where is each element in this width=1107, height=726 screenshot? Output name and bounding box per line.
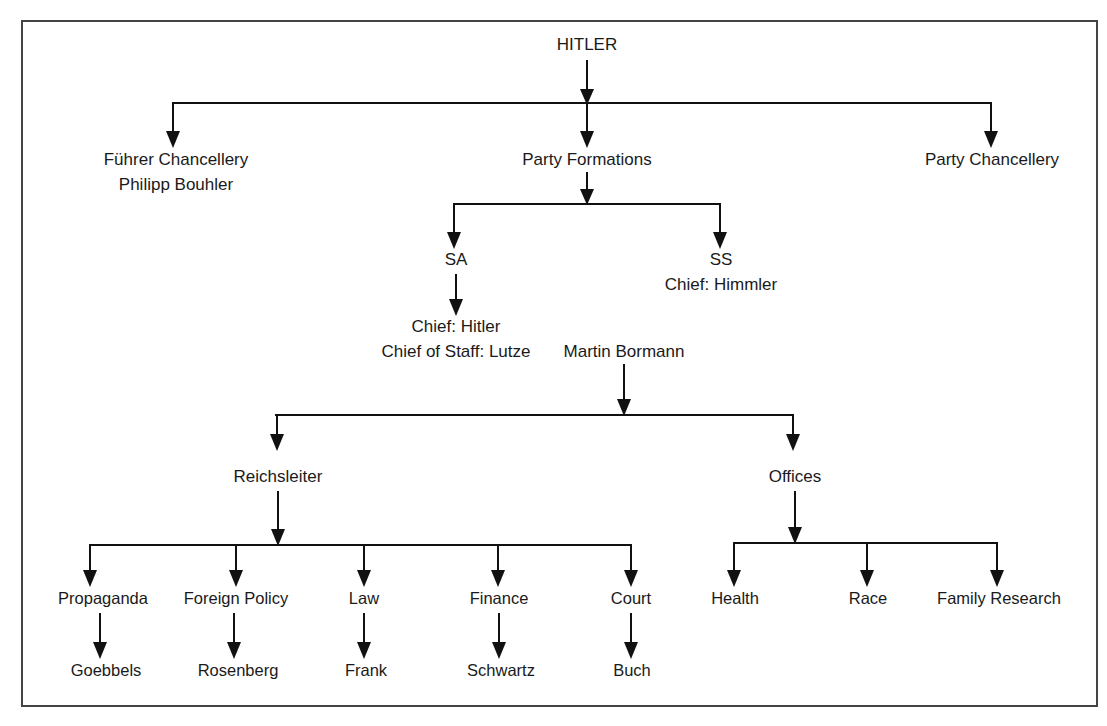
edge-law-to-frank bbox=[357, 613, 371, 659]
edge-finance-to-schwartz bbox=[492, 613, 506, 659]
edge-bus-to-party-formations bbox=[580, 103, 594, 148]
edge-bus-to-family-research bbox=[990, 543, 1004, 587]
node-schwartz: Schwartz bbox=[467, 661, 535, 679]
edge-bus-to-finance bbox=[491, 545, 505, 587]
edge-bus-to-foreign-policy bbox=[229, 545, 243, 587]
node-law: Law bbox=[349, 589, 379, 607]
node-ss: SS bbox=[710, 250, 733, 269]
edge-bus-to-fuhrer-chancellery bbox=[166, 103, 180, 148]
node-offices: Offices bbox=[769, 467, 822, 486]
edge-foreign-policy-to-rosenberg bbox=[227, 613, 241, 659]
org-chart-canvas: HITLER Führer Chancellery Philipp Bouhle… bbox=[0, 0, 1107, 726]
node-fuhrer-chancellery: Führer Chancellery bbox=[104, 150, 249, 169]
node-reichsleiter: Reichsleiter bbox=[234, 467, 323, 486]
node-ss-chief: Chief: Himmler bbox=[665, 275, 778, 294]
node-goebbels: Goebbels bbox=[71, 661, 142, 679]
edge-bus-to-sa bbox=[447, 204, 461, 249]
node-rosenberg: Rosenberg bbox=[198, 661, 279, 679]
node-foreign-policy: Foreign Policy bbox=[184, 589, 289, 607]
node-finance: Finance bbox=[470, 589, 529, 607]
node-family-research: Family Research bbox=[937, 589, 1061, 607]
node-party-formations: Party Formations bbox=[522, 150, 651, 169]
edge-sa-to-sa-chief bbox=[449, 274, 463, 316]
node-sa-chief-of-staff: Chief of Staff: Lutze bbox=[382, 342, 531, 361]
node-sa: SA bbox=[445, 250, 468, 269]
node-court: Court bbox=[611, 589, 652, 607]
edge-bormann-to-level4-bus bbox=[617, 364, 631, 416]
edge-court-to-buch bbox=[624, 613, 638, 659]
edge-bus-to-law bbox=[357, 545, 371, 587]
edge-bus-to-race bbox=[860, 543, 874, 587]
node-party-chancellery: Party Chancellery bbox=[925, 150, 1060, 169]
edge-bus-to-health bbox=[727, 543, 741, 587]
edge-bus-to-propaganda bbox=[83, 545, 97, 587]
node-frank: Frank bbox=[345, 661, 388, 679]
node-martin-bormann: Martin Bormann bbox=[564, 342, 685, 361]
edge-hitler-to-level1-bus bbox=[580, 60, 594, 105]
edge-bus-to-court bbox=[624, 545, 638, 587]
node-philipp-bouhler: Philipp Bouhler bbox=[119, 175, 234, 194]
edge-reichsleiter-to-reichsleiter-bus bbox=[271, 491, 285, 546]
edge-bus-to-ss bbox=[713, 204, 727, 249]
edge-propaganda-to-goebbels bbox=[93, 613, 107, 659]
edge-offices-to-offices-bus bbox=[788, 491, 802, 544]
edge-bus-to-reichsleiter bbox=[270, 415, 284, 451]
node-sa-chief: Chief: Hitler bbox=[412, 317, 501, 336]
edge-party-formations-to-level2-bus bbox=[580, 172, 594, 205]
node-buch: Buch bbox=[613, 661, 651, 679]
org-chart-diagram: HITLER Führer Chancellery Philipp Bouhle… bbox=[0, 0, 1107, 726]
node-health: Health bbox=[711, 589, 759, 607]
node-hitler: HITLER bbox=[557, 35, 617, 54]
edge-bus-to-party-chancellery bbox=[984, 103, 998, 148]
node-race: Race bbox=[849, 589, 888, 607]
edge-bus-to-offices bbox=[786, 415, 800, 451]
node-propaganda: Propaganda bbox=[58, 589, 149, 607]
